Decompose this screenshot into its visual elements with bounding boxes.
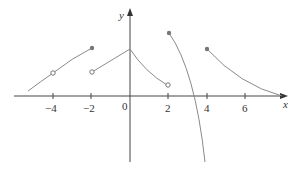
open-point-2	[166, 83, 170, 87]
origin-label: 0	[122, 100, 128, 112]
curve-piece-2a	[92, 49, 130, 72]
open-point-neg2	[90, 70, 94, 74]
curve-piece-4	[207, 49, 282, 96]
tick-label-neg2: −2	[83, 102, 95, 114]
curve-piece-2b	[130, 49, 167, 85]
open-point-neg4	[51, 71, 55, 75]
tick-label-2: 2	[165, 102, 171, 114]
closed-point-4	[205, 47, 209, 51]
y-axis-arrow-icon	[127, 8, 133, 16]
x-axis-label: x	[282, 98, 288, 110]
y-axis-label: y	[118, 9, 124, 21]
piecewise-function-graph: −4 −2 0 2 4 6 x y	[0, 0, 300, 170]
tick-label-4: 4	[204, 102, 210, 114]
curve-piece-3	[169, 33, 205, 162]
curve-piece-1	[28, 48, 92, 91]
closed-point-neg2	[90, 46, 94, 50]
closed-point-2	[167, 31, 171, 35]
tick-label-6: 6	[242, 102, 248, 114]
tick-label-neg4: −4	[45, 102, 57, 114]
